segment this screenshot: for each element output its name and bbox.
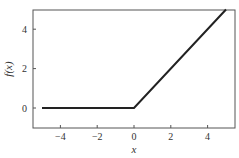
x-tick-label: −4: [55, 131, 66, 142]
relu-chart: 024 −4−2024 x f(x): [0, 0, 239, 158]
y-tick-label: 2: [22, 63, 27, 74]
x-tick-label: 0: [132, 131, 137, 142]
y-axis-label: f(x): [2, 61, 15, 77]
x-tick-label: 2: [168, 131, 173, 142]
y-axis-ticks: 024: [22, 24, 36, 114]
y-tick-label: 0: [22, 103, 27, 114]
plot-frame: [33, 10, 235, 128]
x-axis-label: x: [131, 143, 137, 155]
y-tick-label: 4: [22, 24, 27, 35]
x-tick-label: −2: [92, 131, 103, 142]
x-tick-label: 4: [205, 131, 210, 142]
relu-line: [42, 10, 226, 109]
